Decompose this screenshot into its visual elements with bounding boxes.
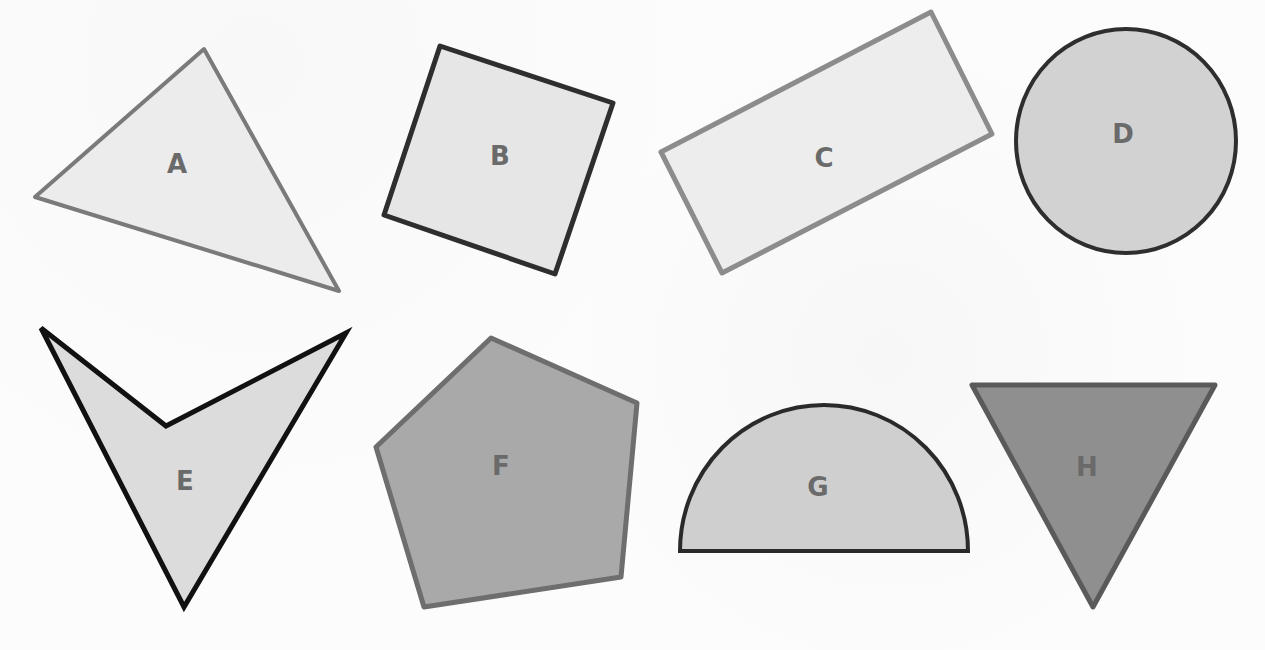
- shape-d-label: D: [1112, 119, 1134, 149]
- shape-d: D: [1016, 29, 1236, 253]
- shape-a-label: A: [167, 149, 187, 179]
- shape-h: H: [972, 385, 1215, 607]
- shape-a: A: [35, 49, 339, 291]
- shapes-figure: A B C D E F G: [0, 0, 1265, 650]
- shape-g: G: [680, 405, 968, 551]
- shape-c-label: C: [814, 143, 833, 173]
- shape-f: F: [376, 338, 637, 607]
- shape-b: B: [384, 46, 613, 274]
- shape-e-label: E: [176, 466, 194, 496]
- shape-g-label: G: [807, 472, 828, 502]
- shape-e: E: [41, 328, 346, 607]
- shape-b-label: B: [490, 141, 510, 171]
- shape-h-outline: [972, 385, 1215, 607]
- shapes-svg: A B C D E F G: [0, 0, 1265, 650]
- shape-h-label: H: [1076, 452, 1098, 482]
- shape-f-label: F: [492, 451, 510, 481]
- shape-c: C: [661, 12, 992, 273]
